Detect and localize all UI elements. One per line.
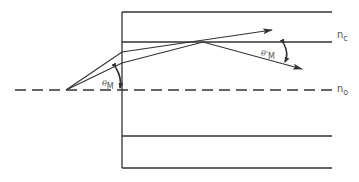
entry-angle-arc-icon: [116, 68, 121, 88]
entry-angle-label: θM: [102, 78, 114, 92]
core-index-label: nc: [337, 30, 348, 44]
exit-angle-arc-icon: [284, 44, 287, 62]
fiber-ray-diagram: [0, 0, 359, 182]
exit-angle-label: θ'M: [261, 48, 275, 62]
axis-index-label: no: [337, 84, 348, 98]
ray-escaping: [66, 30, 272, 90]
